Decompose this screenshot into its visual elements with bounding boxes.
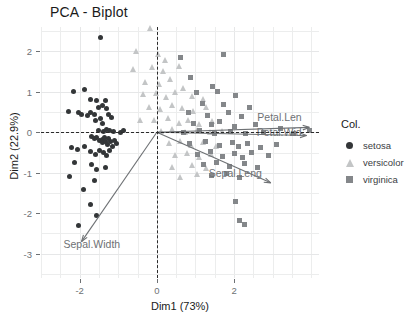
gridline-horizontal	[41, 92, 319, 93]
data-point-setosa	[82, 144, 87, 149]
gridline-horizontal	[41, 233, 319, 234]
data-point-setosa	[109, 115, 114, 120]
y-tick-label: 2	[27, 46, 32, 57]
data-point-virginica	[205, 113, 210, 118]
data-point-versicolor	[140, 91, 146, 97]
horizontal-reference-line	[41, 132, 319, 133]
data-point-setosa	[71, 89, 76, 94]
data-point-versicolor	[169, 102, 175, 108]
gridline-horizontal	[41, 153, 319, 154]
gridline-horizontal	[41, 193, 319, 194]
y-tick-label: -2	[24, 208, 32, 219]
data-point-virginica	[195, 152, 200, 157]
y-tick-mark	[36, 51, 40, 52]
data-point-virginica	[236, 144, 241, 149]
data-point-virginica	[258, 145, 263, 150]
plot-panel: Petal.LenPetal.WidSepal.LengSepal.Width	[41, 27, 319, 278]
data-point-setosa	[81, 187, 86, 192]
loading-arrow-head	[264, 182, 271, 183]
data-point-versicolor	[166, 140, 172, 146]
data-point-versicolor	[185, 117, 191, 123]
data-point-virginica	[194, 90, 199, 95]
data-point-virginica	[188, 75, 193, 80]
data-point-versicolor	[163, 94, 169, 100]
y-tick-mark	[36, 173, 40, 174]
data-point-setosa	[104, 153, 109, 158]
y-tick-mark	[36, 132, 40, 133]
square-icon	[341, 176, 358, 183]
data-point-versicolor	[167, 76, 173, 82]
data-point-versicolor	[172, 152, 178, 158]
legend-item-virginica[interactable]: virginica	[341, 171, 404, 188]
y-tick-label: 1	[27, 86, 32, 97]
data-point-versicolor	[165, 115, 171, 121]
data-point-setosa	[114, 141, 119, 146]
loading-label-sepal-width: Sepal.Width	[64, 238, 121, 250]
gridline-horizontal	[41, 213, 319, 214]
data-point-virginica	[247, 105, 252, 110]
legend-item-label: virginica	[363, 174, 398, 185]
data-point-setosa	[88, 97, 93, 102]
data-point-versicolor	[160, 68, 166, 74]
data-point-virginica	[203, 139, 208, 144]
data-point-versicolor	[179, 105, 185, 111]
y-tick-mark	[36, 213, 40, 214]
legend-item-setosa[interactable]: setosa	[341, 137, 404, 154]
data-point-virginica	[233, 93, 238, 98]
data-point-setosa	[72, 160, 77, 165]
page-title: PCA - Biplot	[50, 4, 128, 20]
data-point-versicolor	[172, 89, 178, 95]
data-point-versicolor	[146, 104, 152, 110]
data-point-versicolor	[133, 48, 139, 54]
triangle-icon	[341, 159, 358, 167]
y-tick-label: 0	[27, 127, 32, 138]
x-tick-label: 0	[154, 285, 159, 296]
pca-biplot-figure: PCA - Biplot Petal.LenPetal.WidSepal.Len…	[0, 0, 412, 326]
data-point-versicolor	[177, 174, 183, 180]
data-point-virginica	[221, 102, 226, 107]
data-point-versicolor	[176, 120, 182, 126]
circle-icon	[341, 142, 358, 149]
data-point-virginica	[239, 114, 244, 119]
data-point-virginica	[217, 143, 222, 148]
legend-title: Col.	[341, 118, 404, 130]
data-point-virginica	[233, 199, 238, 204]
data-point-setosa	[103, 165, 108, 170]
data-point-virginica	[215, 89, 220, 94]
data-point-virginica	[245, 141, 250, 146]
data-point-setosa	[89, 162, 94, 167]
gridline-horizontal	[41, 72, 319, 73]
data-point-versicolor	[157, 106, 163, 112]
loading-label-petal-len: Petal.Len	[257, 111, 301, 123]
triangle-icon-shape	[346, 159, 354, 167]
gridline-horizontal	[41, 51, 319, 52]
data-point-setosa	[75, 147, 80, 152]
square-icon-shape	[346, 176, 353, 183]
data-point-versicolor	[180, 85, 186, 91]
gridline-horizontal	[41, 274, 319, 275]
loading-arrow-head	[266, 178, 271, 183]
y-axis-title: Dim2 (22.9%)	[8, 76, 20, 216]
data-point-virginica	[249, 150, 254, 155]
x-axis-title: Dim1 (73%)	[0, 300, 360, 312]
gridline-horizontal	[41, 254, 319, 255]
data-point-virginica	[220, 154, 225, 159]
data-point-virginica	[186, 110, 191, 115]
legend-item-versicolor[interactable]: versicolor	[341, 154, 404, 171]
data-point-setosa	[98, 35, 103, 40]
y-tick-label: -3	[24, 248, 32, 259]
data-point-virginica	[209, 122, 214, 127]
vertical-reference-line	[157, 27, 158, 278]
x-tick-mark	[234, 279, 235, 283]
data-point-setosa	[100, 121, 105, 126]
data-point-versicolor	[177, 138, 183, 144]
data-point-setosa	[98, 116, 103, 121]
data-point-virginica	[242, 222, 247, 227]
legend: Col. setosaversicolorvirginica	[341, 118, 404, 188]
circle-icon-shape	[346, 142, 353, 149]
data-point-virginica	[208, 149, 213, 154]
data-point-versicolor	[147, 25, 153, 31]
data-point-virginica	[230, 140, 235, 145]
data-point-virginica	[226, 110, 231, 115]
data-point-versicolor	[149, 64, 155, 70]
